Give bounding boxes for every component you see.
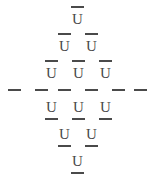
macron-bar-below [72, 118, 85, 120]
u-letter: U [83, 125, 100, 143]
macron-u-glyph: U [69, 148, 86, 174]
macron-bar-below [71, 172, 84, 174]
macron-u-glyph: U [83, 33, 100, 59]
u-letter: U [97, 64, 114, 82]
u-letter: U [83, 37, 100, 55]
u-letter: U [56, 37, 73, 55]
macron-u-glyph: U [83, 121, 100, 147]
u-letter: U [70, 64, 87, 82]
u-letter: U [69, 152, 86, 170]
macron-bar-above [71, 6, 84, 8]
macron-bar-below [45, 118, 58, 120]
u-letter: U [69, 10, 86, 28]
u-letter: U [43, 64, 60, 82]
glyph-lattice-figure: UUUUUUUUUUUU [0, 0, 155, 180]
u-letter: U [70, 98, 87, 116]
u-letter: U [43, 98, 60, 116]
macron-u-glyph: U [56, 33, 73, 59]
macron-u-glyph: U [70, 94, 87, 120]
macron-dash [35, 89, 48, 91]
u-letter: U [97, 98, 114, 116]
macron-u-glyph: U [69, 6, 86, 32]
macron-bar-below [99, 118, 112, 120]
macron-u-glyph: U [70, 60, 87, 86]
macron-bar-below [58, 145, 71, 147]
macron-u-glyph: U [43, 94, 60, 120]
u-letter: U [56, 125, 73, 143]
macron-u-glyph: U [97, 60, 114, 86]
macron-dash [112, 89, 125, 91]
macron-bar-above [45, 60, 58, 62]
macron-bar-above [85, 33, 98, 35]
macron-u-glyph: U [97, 94, 114, 120]
macron-u-glyph: U [43, 60, 60, 86]
macron-bar-below [85, 145, 98, 147]
macron-dash [8, 89, 21, 91]
macron-dash [134, 89, 147, 91]
macron-dash [85, 89, 98, 91]
macron-bar-above [72, 60, 85, 62]
macron-dash [58, 89, 71, 91]
macron-bar-above [99, 60, 112, 62]
macron-u-glyph: U [56, 121, 73, 147]
macron-bar-above [58, 33, 71, 35]
